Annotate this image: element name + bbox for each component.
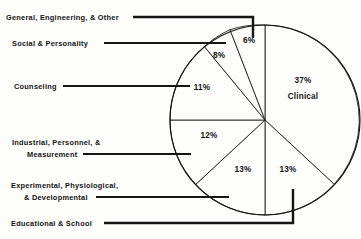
slice-percent-general-engineering-other: 6%	[243, 36, 256, 45]
slice-name-clinical: Clinical	[288, 92, 319, 101]
slice-percent-social-personality: 8%	[213, 51, 226, 60]
callout-label-industrial-personnel-measurement-line1: Industrial, Personnel, &	[12, 138, 101, 147]
slice-percent-counseling: 11%	[194, 83, 211, 92]
slice-percent-experimental-physiological-developmental: 13%	[235, 165, 253, 174]
callout-label-industrial-personnel-measurement-line2: Measurement	[27, 150, 78, 159]
callout-label-social-personality: Social & Personality	[12, 39, 89, 48]
callout-label-general-engineering-other: General, Engineering, & Other	[6, 13, 119, 22]
callout-label-experimental-physiological-developmental-line2: & Developmental	[24, 193, 88, 202]
slice-percent-clinical: 37%	[295, 76, 313, 85]
category-labels: General, Engineering, & Other Social & P…	[6, 13, 119, 228]
callout-label-counseling: Counseling	[14, 82, 57, 91]
pie-chart-figure: General, Engineering, & Other Social & P…	[0, 0, 361, 239]
callout-label-educational-school: Educational & School	[11, 219, 92, 228]
pie-slices	[170, 25, 359, 215]
pie-chart-canvas: General, Engineering, & Other Social & P…	[0, 0, 361, 239]
slice-percent-educational-school: 13%	[280, 165, 298, 174]
slice-percent-industrial-personnel-measurement: 12%	[201, 131, 219, 140]
callout-label-experimental-physiological-developmental-line1: Experimental, Physiological,	[11, 181, 118, 190]
